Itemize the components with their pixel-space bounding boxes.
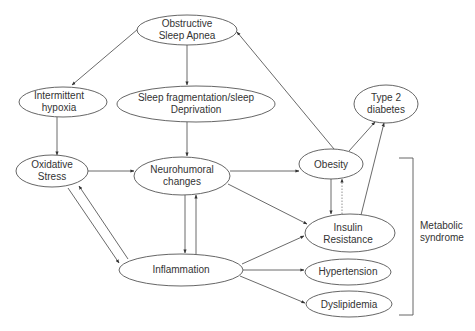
node-label-line1: Intermittent: [34, 90, 84, 101]
node-label-line1: Oxidative: [31, 159, 73, 170]
node-intermittent-hypoxia: Intermittent hypoxia: [19, 87, 107, 117]
node-label-line2: Sleep Apnea: [159, 30, 216, 41]
node-label-line2: Deprivation: [171, 104, 222, 115]
edge-inflammation-to-oxidative: [79, 186, 128, 259]
node-label: Obesity: [314, 159, 348, 170]
node-inflammation: Inflammation: [119, 254, 243, 286]
node-oxidative-stress: Oxidative Stress: [16, 155, 88, 187]
edge-oxidative-to-inflammation: [68, 188, 119, 263]
edge-insulin-to-t2d: [361, 123, 384, 215]
node-label-line1: Sleep fragmentation/sleep: [138, 92, 255, 103]
node-shape: [305, 214, 395, 252]
group-label-line2: syndrome: [420, 232, 464, 243]
node-label: Dyslipidemia: [321, 299, 378, 310]
edge-osa-to-hypoxia: [72, 29, 138, 85]
edge-inflammation-to-dyslipidemia: [240, 276, 305, 303]
node-dyslipidemia: Dyslipidemia: [306, 291, 392, 317]
diagram-canvas: Obstructive Sleep Apnea Intermittent hyp…: [0, 0, 475, 331]
node-label: Inflammation: [152, 264, 209, 275]
node-label-line1: Type 2: [371, 92, 401, 103]
group-label-line1: Metabolic: [420, 220, 463, 231]
edge-neuro-to-insulin: [228, 184, 307, 224]
node-obstructive-sleep-apnea: Obstructive Sleep Apnea: [137, 15, 237, 45]
edge-obesity-to-osa: [237, 32, 334, 149]
node-label-line2: Resistance: [323, 234, 373, 245]
node-label-line2: hypoxia: [42, 102, 77, 113]
node-insulin-resistance: Insulin Resistance: [305, 214, 395, 252]
node-label-line1: Neurohumoral: [150, 164, 213, 175]
edge-inflammation-to-insulin: [242, 236, 304, 264]
node-type-2-diabetes: Type 2 diabetes: [354, 85, 418, 123]
node-label-line1: Insulin: [334, 222, 363, 233]
node-neurohumoral-changes: Neurohumoral changes: [134, 157, 230, 195]
node-label-line1: Obstructive: [162, 18, 213, 29]
edge-obesity-to-t2d: [349, 122, 375, 151]
node-label-line2: diabetes: [367, 104, 405, 115]
metabolic-syndrome-group: Metabolic syndrome: [399, 158, 464, 315]
node-hypertension: Hypertension: [305, 259, 391, 285]
node-obesity: Obesity: [299, 149, 363, 179]
node-label: Hypertension: [319, 266, 378, 277]
group-bracket: [399, 158, 413, 315]
node-label-line2: Stress: [38, 171, 66, 182]
node-sleep-fragmentation: Sleep fragmentation/sleep Deprivation: [117, 86, 275, 122]
node-label-line2: changes: [163, 176, 201, 187]
